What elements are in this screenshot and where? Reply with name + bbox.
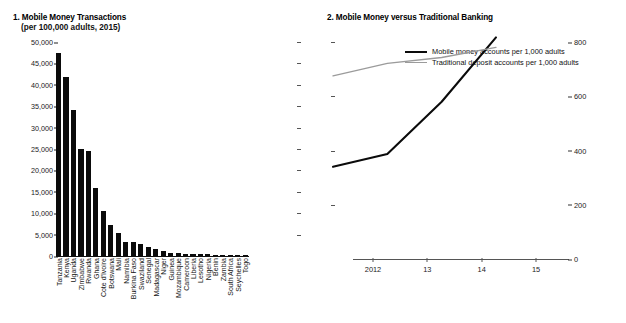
bar <box>86 151 91 256</box>
panel2-plot-area <box>313 0 526 217</box>
category-label: Tanzania <box>56 258 61 323</box>
bar <box>78 149 83 256</box>
bar <box>183 254 188 256</box>
bar-slot <box>71 42 76 256</box>
category-label: Burkina Faso <box>131 258 136 323</box>
panel2-y-tick-label: 800 <box>574 38 586 47</box>
panel1-bars <box>56 42 248 256</box>
panel2-y-tick-label: 400 <box>574 146 586 155</box>
panel2-x-tick-label: 2012 <box>365 265 381 274</box>
category-label: Cameroon <box>183 258 188 323</box>
panel1-right-tick <box>297 149 301 150</box>
category-label: Senegal <box>146 258 151 323</box>
category-label: Mozambique <box>176 258 181 323</box>
bar <box>176 253 181 256</box>
panel1-right-tick <box>297 128 301 129</box>
panel1-y-tick-label: 45,000 <box>31 59 53 68</box>
bar <box>198 254 203 256</box>
panel1-right-tick <box>297 106 301 107</box>
panel2-y-tick-label: 200 <box>574 200 586 209</box>
category-label: Botswana <box>108 258 113 323</box>
panel1-y-tick-label: 25,000 <box>31 145 53 154</box>
panel2-left-tick <box>331 151 335 152</box>
panel1-right-tick <box>297 192 301 193</box>
chart-panel-mobile-money-transactions: 1. Mobile Money Transactions (per 100,00… <box>0 0 313 323</box>
bar-slot <box>235 42 240 256</box>
bar-slot <box>243 42 248 256</box>
panel1-right-tick <box>297 170 301 171</box>
panel2-left-tick <box>331 42 335 43</box>
panel2-x-tick <box>373 258 374 262</box>
bar-slot <box>190 42 195 256</box>
bar <box>93 188 98 256</box>
bar-slot <box>176 42 181 256</box>
panel1-category-labels: TanzaniaKenyaUgandaZimbabweRwandaGhanaCo… <box>56 258 248 323</box>
panel1-right-tick <box>297 235 301 236</box>
bar <box>235 255 240 256</box>
category-label: Uganda <box>71 258 76 323</box>
panel2-x-tick <box>536 258 537 262</box>
panel1-y-tick-label: 10,000 <box>31 209 53 218</box>
bar <box>161 251 166 256</box>
bar-slot <box>220 42 225 256</box>
panel2-y-tick-label: 0 <box>574 255 578 264</box>
category-label: Mali <box>116 258 121 323</box>
line-traditional-deposit <box>333 47 496 75</box>
category-label: Lesotho <box>198 258 203 323</box>
bar-slot <box>138 42 143 256</box>
bar-slot <box>168 42 173 256</box>
bar-slot <box>153 42 158 256</box>
category-label: Swaziland <box>138 258 143 323</box>
bar-slot <box>78 42 83 256</box>
bar-slot <box>213 42 218 256</box>
category-label: Ghana <box>93 258 98 323</box>
bar <box>123 242 128 256</box>
category-label: South Africa <box>228 258 233 323</box>
bar-slot <box>228 42 233 256</box>
bar-slot <box>146 42 151 256</box>
category-label: Cote d'Ivoire <box>101 258 106 323</box>
bar-slot <box>86 42 91 256</box>
bar <box>213 255 218 256</box>
category-label: Zimbabwe <box>78 258 83 323</box>
panel1-y-tick-label: 0 <box>49 252 53 261</box>
panel1-y-tick-label: 50,000 <box>31 38 53 47</box>
bar-slot <box>93 42 98 256</box>
panel2-left-tick <box>331 205 335 206</box>
panel2-x-axis-labels: 2012131415 <box>353 262 569 278</box>
category-label: Liberia <box>190 258 195 323</box>
panel2-x-tick-label: 14 <box>478 265 486 274</box>
panel2-x-axis-line <box>353 259 569 260</box>
bar <box>243 255 248 256</box>
bar <box>56 53 61 256</box>
bar <box>131 242 136 256</box>
panel1-right-tick <box>297 63 301 64</box>
bar <box>71 110 76 256</box>
bar-slot <box>183 42 188 256</box>
category-label: Namibia <box>123 258 128 323</box>
bar-slot <box>205 42 210 256</box>
panel2-left-tick <box>331 96 335 97</box>
bar <box>220 255 225 256</box>
panel2-x-tick-label: 13 <box>423 265 431 274</box>
category-label: Kenya <box>63 258 68 323</box>
panel1-y-tick-label: 5,000 <box>35 230 53 239</box>
category-label: Guinea <box>168 258 173 323</box>
bar-slot <box>56 42 61 256</box>
panel1-y-tick-label: 20,000 <box>31 166 53 175</box>
panel1-y-axis: 05,00010,00015,00020,00025,00030,00035,0… <box>0 42 56 257</box>
bar <box>228 255 233 256</box>
panel1-subtitle: (per 100,000 adults, 2015) <box>21 23 261 32</box>
category-label: Niger <box>161 258 166 323</box>
panel1-right-tick <box>297 213 301 214</box>
bar-slot <box>131 42 136 256</box>
bar-slot <box>63 42 68 256</box>
panel2-line-series <box>313 0 526 217</box>
bar <box>63 77 68 256</box>
bar-slot <box>101 42 106 256</box>
category-label: Seychelles <box>235 258 240 323</box>
bar <box>153 249 158 256</box>
panel2-x-tick <box>481 258 482 262</box>
category-label: Madagascar <box>153 258 158 323</box>
category-label: Rwanda <box>86 258 91 323</box>
